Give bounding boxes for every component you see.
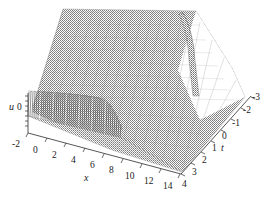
t-tick--1: -1	[232, 118, 240, 128]
x-tick-6: 6	[90, 160, 95, 170]
figure-canvas: u 0 -2 0 2 4 6 8 10 12	[0, 0, 280, 203]
t-tick-3: 3	[192, 167, 197, 177]
surface-plot: u 0 -2 0 2 4 6 8 10 12	[0, 0, 280, 203]
u-tick-0: 0	[17, 102, 22, 112]
axis-u: u 0	[9, 93, 28, 133]
x-tick-12: 12	[144, 176, 154, 186]
axis-label-u: u	[9, 101, 14, 112]
t-tick--2: -2	[243, 105, 251, 115]
axis-label-x: x	[83, 172, 89, 183]
x-tick-14: 14	[163, 181, 173, 191]
x-tick-4: 4	[71, 155, 76, 165]
t-tick-1: 1	[212, 143, 217, 153]
axis-label-t: t	[221, 142, 224, 153]
t-tick-2: 2	[202, 155, 207, 165]
x-tick--2: -2	[12, 139, 20, 149]
x-tick-10: 10	[125, 171, 135, 181]
t-tick-0: 0	[222, 131, 227, 141]
x-tick-8: 8	[109, 165, 114, 175]
t-tick--3: -3	[252, 92, 260, 102]
t-tick-4: 4	[182, 179, 187, 189]
x-tick-2: 2	[52, 150, 57, 160]
x-tick-0: 0	[33, 145, 38, 155]
